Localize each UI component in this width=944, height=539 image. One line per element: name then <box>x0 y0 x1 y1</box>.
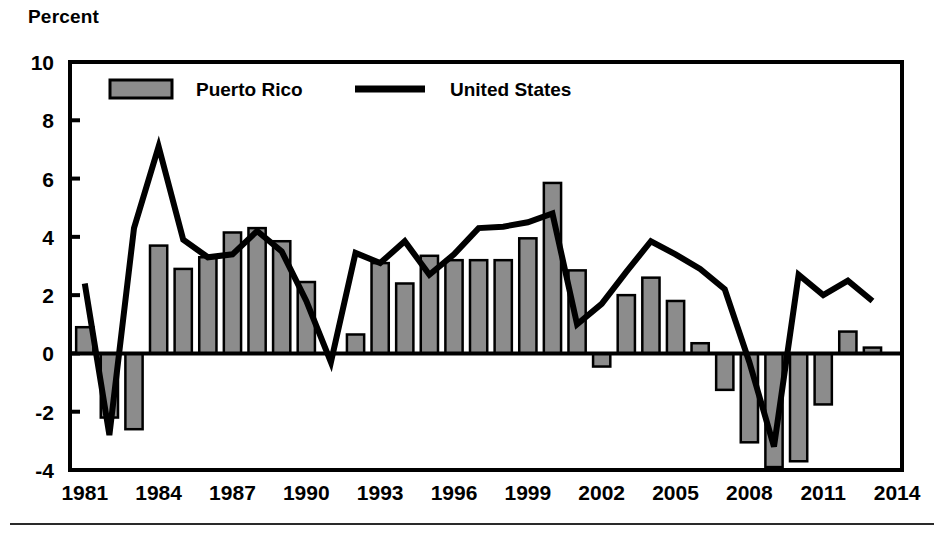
x-tick-label: 1990 <box>283 481 330 504</box>
bar-2000 <box>544 183 561 353</box>
y-tick-label: -4 <box>35 459 54 482</box>
bar-2010 <box>790 353 807 461</box>
y-tick-label: 8 <box>42 109 54 132</box>
bar-1988 <box>248 228 265 353</box>
y-tick-label: 10 <box>31 51 54 74</box>
x-tick-label: 1984 <box>135 481 182 504</box>
bar-1994 <box>396 283 413 353</box>
bar-1984 <box>150 246 167 354</box>
bar-1992 <box>347 334 364 353</box>
bar-1993 <box>372 263 389 353</box>
bar-1983 <box>125 353 142 429</box>
bar-2003 <box>618 295 635 353</box>
chart-figure: Percent 1086420-2-4 19811984198719901993… <box>0 0 944 539</box>
bar-2011 <box>815 353 832 404</box>
x-tick-label: 1993 <box>357 481 404 504</box>
bar-1985 <box>175 269 192 354</box>
x-tick-label: 2002 <box>578 481 625 504</box>
legend-swatch-puerto-rico <box>110 80 172 98</box>
x-tick-label: 2011 <box>800 481 846 504</box>
bar-1986 <box>199 257 216 353</box>
legend-label-united-states: United States <box>450 79 571 100</box>
x-tick-label: 1987 <box>209 481 256 504</box>
y-tick-label: -2 <box>35 401 54 424</box>
percent-growth-chart: 1086420-2-4 1981198419871990199319961999… <box>0 0 944 539</box>
bar-1996 <box>445 260 462 353</box>
bar-1998 <box>495 260 512 353</box>
footer-divider <box>10 523 934 525</box>
x-tick-label: 1981 <box>61 481 108 504</box>
bar-2012 <box>839 332 856 354</box>
x-tick-label: 2014 <box>874 481 921 504</box>
y-tick-label: 4 <box>42 226 54 249</box>
x-tick-label: 1999 <box>504 481 551 504</box>
bar-2004 <box>642 278 659 354</box>
y-tick-label: 2 <box>42 284 54 307</box>
bar-1997 <box>470 260 487 353</box>
x-axis-ticks: 1981198419871990199319961999200220052008… <box>61 481 920 504</box>
bar-2005 <box>667 301 684 353</box>
x-tick-label: 1996 <box>431 481 478 504</box>
legend-label-puerto-rico: Puerto Rico <box>196 79 303 100</box>
y-tick-label: 6 <box>42 168 54 191</box>
y-tick-label: 0 <box>42 342 54 365</box>
bar-2007 <box>716 353 733 389</box>
x-tick-label: 2005 <box>652 481 699 504</box>
x-tick-label: 2008 <box>726 481 773 504</box>
bar-1999 <box>519 238 536 353</box>
